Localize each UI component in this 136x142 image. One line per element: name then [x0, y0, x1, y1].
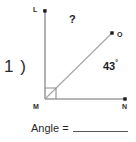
known-angle-measure: 43° — [103, 59, 118, 72]
point-o — [110, 31, 113, 34]
degree-symbol-icon: ° — [115, 59, 118, 66]
vertex-label-l: L — [33, 6, 37, 13]
answer-row: Angle = — [31, 121, 128, 134]
vertex-label-m: M — [33, 103, 39, 110]
vertex-label-n: N — [122, 103, 127, 110]
answer-blank-input[interactable] — [73, 121, 128, 132]
point-n — [123, 97, 126, 100]
vertex-label-o: O — [117, 31, 122, 38]
unknown-angle-label: ? — [69, 14, 76, 25]
point-l — [43, 9, 46, 12]
known-angle-value: 43 — [103, 60, 115, 72]
answer-label: Angle = — [31, 122, 69, 134]
worksheet-problem: 1 ) L O M N ? 43° Angle = — [0, 0, 136, 142]
ray-mo — [45, 33, 112, 99]
